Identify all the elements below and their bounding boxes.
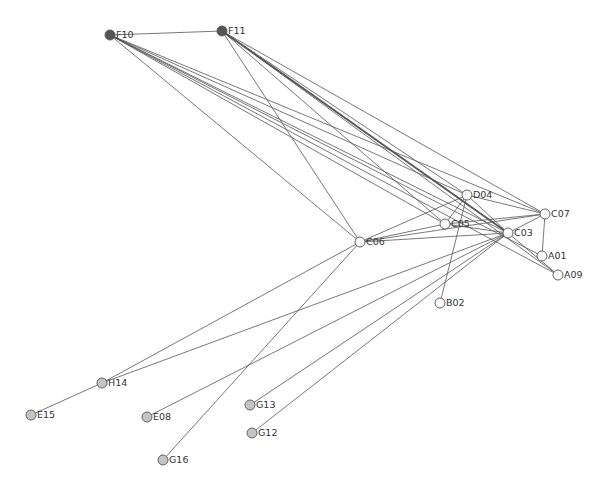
node-h14[interactable]: H14 — [97, 377, 127, 388]
node-c03[interactable]: C03 — [503, 227, 533, 238]
node-circle-icon[interactable] — [158, 455, 168, 465]
node-c06[interactable]: C06 — [355, 236, 385, 247]
node-g16[interactable]: G16 — [158, 454, 188, 465]
network-graph-canvas: F10F11D04C07C05C03C06A01A09B02H14E15E08G… — [0, 0, 605, 490]
node-circle-icon[interactable] — [503, 228, 513, 238]
node-a09[interactable]: A09 — [553, 269, 583, 280]
node-circle-icon[interactable] — [355, 237, 365, 247]
node-g12[interactable]: G12 — [247, 427, 277, 438]
node-label: B02 — [446, 297, 465, 308]
node-circle-icon[interactable] — [247, 428, 257, 438]
node-label: H14 — [108, 377, 127, 388]
node-label: F11 — [228, 25, 246, 36]
node-label: E08 — [153, 411, 171, 422]
node-c05[interactable]: C05 — [440, 218, 470, 229]
canvas-background — [0, 0, 605, 490]
node-label: G12 — [258, 427, 277, 438]
node-circle-icon[interactable] — [142, 412, 152, 422]
node-label: C05 — [451, 218, 470, 229]
node-circle-icon[interactable] — [26, 410, 36, 420]
node-g13[interactable]: G13 — [245, 399, 275, 410]
node-circle-icon[interactable] — [97, 378, 107, 388]
node-circle-icon[interactable] — [553, 270, 563, 280]
node-circle-icon[interactable] — [537, 251, 547, 261]
node-circle-icon[interactable] — [462, 190, 472, 200]
node-b02[interactable]: B02 — [435, 297, 465, 308]
node-d04[interactable]: D04 — [462, 189, 492, 200]
node-label: G16 — [169, 454, 188, 465]
node-label: F10 — [116, 29, 134, 40]
node-label: A01 — [548, 250, 567, 261]
node-c07[interactable]: C07 — [540, 208, 570, 219]
node-circle-icon[interactable] — [435, 298, 445, 308]
node-label: G13 — [256, 399, 275, 410]
node-label: C07 — [551, 208, 570, 219]
node-f11[interactable]: F11 — [217, 25, 246, 36]
node-circle-icon[interactable] — [105, 30, 115, 40]
node-e08[interactable]: E08 — [142, 411, 171, 422]
node-label: A09 — [564, 269, 583, 280]
node-f10[interactable]: F10 — [105, 29, 134, 40]
node-a01[interactable]: A01 — [537, 250, 567, 261]
node-label: E15 — [37, 409, 55, 420]
node-label: D04 — [473, 189, 492, 200]
node-e15[interactable]: E15 — [26, 409, 55, 420]
node-circle-icon[interactable] — [540, 209, 550, 219]
node-circle-icon[interactable] — [217, 26, 227, 36]
node-label: C03 — [514, 227, 533, 238]
node-circle-icon[interactable] — [440, 219, 450, 229]
node-circle-icon[interactable] — [245, 400, 255, 410]
node-label: C06 — [366, 236, 385, 247]
